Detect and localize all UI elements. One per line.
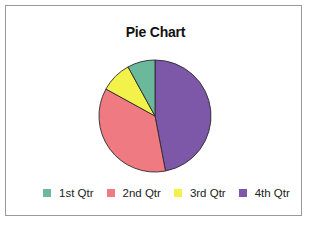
legend-label: 3rd Qtr bbox=[190, 187, 226, 199]
legend-item-2nd-qtr: 2nd Qtr bbox=[107, 187, 161, 199]
legend-item-1st-qtr: 1st Qtr bbox=[43, 187, 94, 199]
legend-swatch bbox=[43, 189, 51, 197]
legend-label: 2nd Qtr bbox=[123, 187, 161, 199]
pie-slice-4th-qtr bbox=[155, 60, 211, 171]
legend-item-3rd-qtr: 3rd Qtr bbox=[174, 187, 226, 199]
legend: 1st Qtr 2nd Qtr 3rd Qtr 4th Qtr bbox=[43, 187, 303, 199]
legend-item-4th-qtr: 4th Qtr bbox=[239, 187, 290, 199]
legend-label: 4th Qtr bbox=[255, 187, 290, 199]
legend-label: 1st Qtr bbox=[59, 187, 94, 199]
legend-swatch bbox=[107, 189, 115, 197]
legend-swatch bbox=[239, 189, 247, 197]
legend-swatch bbox=[174, 189, 182, 197]
